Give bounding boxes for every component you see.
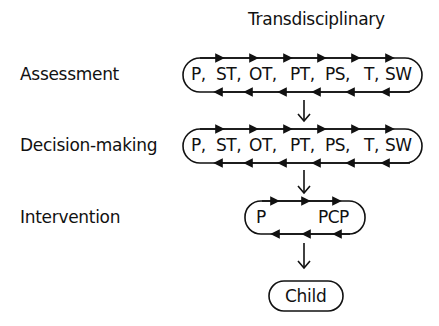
member: OT,: [249, 64, 277, 84]
stage-label-assessment: Assessment: [20, 64, 119, 84]
member: SW: [385, 64, 412, 84]
member: ST,: [216, 135, 241, 155]
stage-label-decision-making: Decision-making: [20, 135, 157, 155]
diagram-title: Transdisciplinary: [248, 9, 385, 29]
member: PS,: [325, 135, 350, 155]
member: OT,: [249, 135, 277, 155]
member: PS,: [325, 64, 350, 84]
member: ST,: [216, 64, 241, 84]
member: P: [256, 207, 266, 227]
member: P,: [191, 64, 206, 84]
member: PCP: [318, 207, 349, 227]
child-label: Child: [285, 286, 326, 306]
diagram-lines: [0, 0, 439, 326]
member: SW: [385, 135, 412, 155]
member: P,: [191, 135, 206, 155]
member: PT,: [290, 135, 315, 155]
stage-label-intervention: Intervention: [20, 207, 120, 227]
member: T,: [364, 135, 379, 155]
member: T,: [364, 64, 379, 84]
transdisciplinary-diagram: Transdisciplinary Assessment Decision-ma…: [0, 0, 439, 326]
down-arrows: [298, 100, 310, 268]
member: PT,: [290, 64, 315, 84]
